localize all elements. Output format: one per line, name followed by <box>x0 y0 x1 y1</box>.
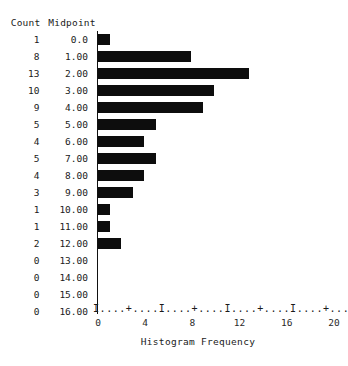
table-row: 103.00 <box>0 82 96 99</box>
bar-row <box>98 31 348 48</box>
frequency-table: Count Midpoint 10.081.00132.00103.0094.0… <box>0 14 96 31</box>
table-row: 39.00 <box>0 184 96 201</box>
table-row: 212.00 <box>0 235 96 252</box>
bar-group <box>98 31 348 320</box>
bar-row <box>98 150 348 167</box>
table-header-row: Count Midpoint <box>0 14 96 31</box>
cell-count: 1 <box>0 31 41 48</box>
x-axis-ruler: I....+....I....+....I....+....I....+....… <box>93 303 348 314</box>
cell-midpoint: 5.00 <box>41 116 96 133</box>
bar <box>98 204 110 215</box>
bar-row <box>98 133 348 150</box>
x-tick-label: 20 <box>328 317 339 328</box>
bar-row <box>98 269 348 286</box>
cell-count: 5 <box>0 150 41 167</box>
cell-midpoint: 12.00 <box>41 235 96 252</box>
x-tick-label: 4 <box>142 317 148 328</box>
table-row: 132.00 <box>0 65 96 82</box>
cell-count: 9 <box>0 99 41 116</box>
cell-midpoint: 15.00 <box>41 286 96 303</box>
cell-midpoint: 4.00 <box>41 99 96 116</box>
table-row: 015.00 <box>0 286 96 303</box>
bar-row <box>98 252 348 269</box>
cell-count: 0 <box>0 269 41 286</box>
cell-count: 1 <box>0 201 41 218</box>
cell-count: 4 <box>0 167 41 184</box>
table-row: 013.00 <box>0 252 96 269</box>
x-tick-label: 0 <box>95 317 101 328</box>
table-row: 110.00 <box>0 201 96 218</box>
cell-count: 3 <box>0 184 41 201</box>
cell-count: 0 <box>0 286 41 303</box>
bar-row <box>98 82 348 99</box>
bar-row <box>98 201 348 218</box>
x-axis-title: Histogram Frequency <box>0 336 348 347</box>
cell-midpoint: 14.00 <box>41 269 96 286</box>
bar-row <box>98 184 348 201</box>
plot-area <box>96 31 348 320</box>
cell-midpoint: 11.00 <box>41 218 96 235</box>
table-row: 014.00 <box>0 269 96 286</box>
bar-row <box>98 116 348 133</box>
x-tick-label: 12 <box>234 317 245 328</box>
x-tick-label: 8 <box>190 317 196 328</box>
bar-row <box>98 167 348 184</box>
x-tick-label: 16 <box>281 317 292 328</box>
cell-midpoint: 10.00 <box>41 201 96 218</box>
bar <box>98 153 156 164</box>
bar-row <box>98 235 348 252</box>
cell-midpoint: 8.00 <box>41 167 96 184</box>
bar <box>98 85 214 96</box>
cell-count: 5 <box>0 116 41 133</box>
cell-count: 13 <box>0 65 41 82</box>
cell-count: 8 <box>0 48 41 65</box>
bar <box>98 238 121 249</box>
bar <box>98 51 191 62</box>
table-row: 46.00 <box>0 133 96 150</box>
bar <box>98 136 144 147</box>
bar <box>98 102 203 113</box>
column-header-count: Count <box>0 14 42 31</box>
bar <box>98 68 249 79</box>
column-header-midpoint: Midpoint <box>42 14 96 31</box>
bar <box>98 221 110 232</box>
table-row: 48.00 <box>0 167 96 184</box>
bar-row <box>98 218 348 235</box>
cell-midpoint: 1.00 <box>41 48 96 65</box>
table-row: 016.00 <box>0 303 96 320</box>
cell-count: 0 <box>0 252 41 269</box>
table-row: 55.00 <box>0 116 96 133</box>
cell-count: 0 <box>0 303 41 320</box>
table-row: 94.00 <box>0 99 96 116</box>
cell-count: 1 <box>0 218 41 235</box>
x-axis-tick-labels: 048121620 <box>93 317 341 331</box>
bar <box>98 170 144 181</box>
bar <box>98 119 156 130</box>
table-row: 10.0 <box>0 31 96 48</box>
bar-row <box>98 48 348 65</box>
table-row: 57.00 <box>0 150 96 167</box>
bar-row <box>98 99 348 116</box>
cell-midpoint: 3.00 <box>41 82 96 99</box>
table-body: 10.081.00132.00103.0094.0055.0046.0057.0… <box>0 31 96 320</box>
cell-midpoint: 0.0 <box>41 31 96 48</box>
bar <box>98 34 110 45</box>
cell-count: 2 <box>0 235 41 252</box>
cell-midpoint: 13.00 <box>41 252 96 269</box>
cell-midpoint: 16.00 <box>41 303 96 320</box>
bar-row <box>98 65 348 82</box>
cell-midpoint: 2.00 <box>41 65 96 82</box>
cell-midpoint: 9.00 <box>41 184 96 201</box>
cell-count: 4 <box>0 133 41 150</box>
bar <box>98 187 133 198</box>
histogram-page: Count Midpoint 10.081.00132.00103.0094.0… <box>0 0 348 366</box>
cell-midpoint: 7.00 <box>41 150 96 167</box>
bar-row <box>98 286 348 303</box>
table-row: 81.00 <box>0 48 96 65</box>
cell-count: 10 <box>0 82 41 99</box>
table-row: 111.00 <box>0 218 96 235</box>
cell-midpoint: 6.00 <box>41 133 96 150</box>
